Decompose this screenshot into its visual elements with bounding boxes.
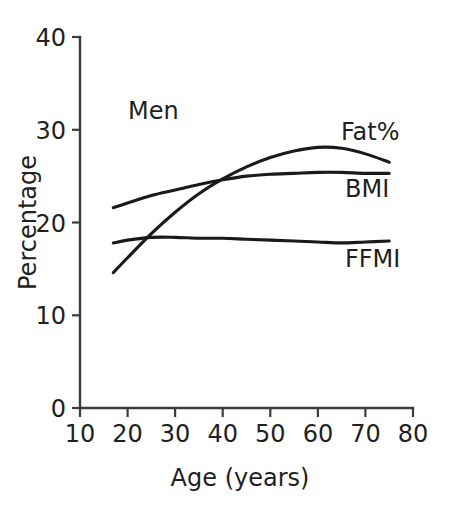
series-label-bmi: BMI bbox=[345, 175, 389, 203]
x-tick-label-50: 50 bbox=[255, 420, 286, 448]
x-tick-labels: 10 20 30 40 50 60 70 80 bbox=[65, 420, 429, 448]
x-tick-label-80: 80 bbox=[398, 420, 429, 448]
x-tick-label-30: 30 bbox=[160, 420, 191, 448]
x-tick-label-70: 70 bbox=[350, 420, 381, 448]
line-chart-plot: 40 30 20 10 0 10 20 30 40 50 60 70 80 Pe… bbox=[0, 0, 453, 511]
y-tick-label-40: 40 bbox=[35, 24, 66, 52]
series-label-ffmi: FFMI bbox=[345, 245, 400, 273]
chart-figure: 40 30 20 10 0 10 20 30 40 50 60 70 80 Pe… bbox=[0, 0, 453, 511]
x-tick-label-20: 20 bbox=[112, 420, 143, 448]
x-tick-label-10: 10 bbox=[65, 420, 96, 448]
panel-label-men: Men bbox=[128, 97, 179, 125]
x-axis-title: Age (years) bbox=[171, 464, 310, 492]
series-label-fat-percent: Fat% bbox=[341, 118, 400, 146]
x-tick-label-40: 40 bbox=[207, 420, 238, 448]
series-line-ffmi bbox=[113, 237, 389, 243]
y-tick-label-10: 10 bbox=[35, 302, 66, 330]
y-tick-label-30: 30 bbox=[35, 117, 66, 145]
x-tick-marks bbox=[80, 408, 413, 417]
x-tick-label-60: 60 bbox=[303, 420, 334, 448]
y-axis-title: Percentage bbox=[14, 155, 42, 290]
y-tick-label-0: 0 bbox=[51, 395, 66, 423]
axis-group bbox=[72, 37, 413, 417]
